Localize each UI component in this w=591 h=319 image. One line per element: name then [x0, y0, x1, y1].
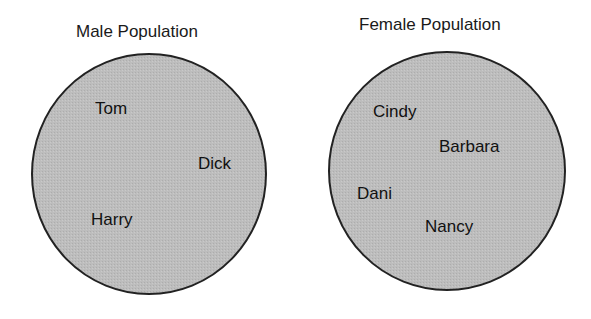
- male-population-circle: [32, 54, 266, 294]
- female-member-dani: Dani: [357, 184, 392, 204]
- female-member-barbara: Barbara: [439, 137, 499, 157]
- female-population-title: Female Population: [359, 15, 501, 35]
- female-member-cindy: Cindy: [373, 102, 416, 122]
- male-population-title: Male Population: [76, 22, 198, 42]
- male-member-tom: Tom: [95, 99, 127, 119]
- diagram-canvas: [0, 0, 591, 319]
- male-member-harry: Harry: [91, 210, 133, 230]
- female-member-nancy: Nancy: [425, 217, 473, 237]
- female-population-circle: [329, 52, 565, 290]
- male-member-dick: Dick: [198, 154, 231, 174]
